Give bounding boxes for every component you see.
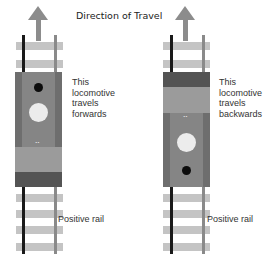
caption-forwards: This locomotive travels forwards: [72, 77, 115, 119]
side-strip: [55, 72, 62, 147]
negative-rail: [170, 186, 173, 254]
positive-rail-label-left: Positive rail: [58, 214, 104, 225]
headlight-icon: [29, 103, 48, 122]
dark-end: [163, 72, 210, 87]
polarity-dot-icon: [34, 83, 43, 92]
positive-rail: [202, 186, 205, 254]
negative-rail: [22, 186, 25, 254]
headlight-icon: [177, 133, 196, 152]
locomotive-backwards: ••: [163, 72, 210, 187]
locomotive-forwards: ••: [15, 72, 62, 187]
negative-rail: [22, 35, 25, 73]
positive-rail: [54, 35, 57, 73]
marks-icon: ••: [183, 115, 188, 119]
dark-end: [15, 172, 62, 187]
side-strip: [203, 113, 210, 187]
cab-section: [15, 147, 62, 172]
positive-rail: [54, 186, 57, 254]
polarity-dot-icon: [182, 166, 191, 175]
side-strip: [163, 113, 170, 187]
positive-rail: [202, 35, 205, 73]
caption-backwards: This locomotive travels backwards: [219, 77, 262, 119]
positive-rail-label-right: Positive rail: [207, 214, 253, 225]
cab-section: [163, 87, 210, 113]
marks-icon: ••: [35, 141, 40, 145]
negative-rail: [170, 35, 173, 73]
diagram-title: Direction of Travel: [76, 10, 162, 21]
side-strip: [15, 72, 22, 147]
